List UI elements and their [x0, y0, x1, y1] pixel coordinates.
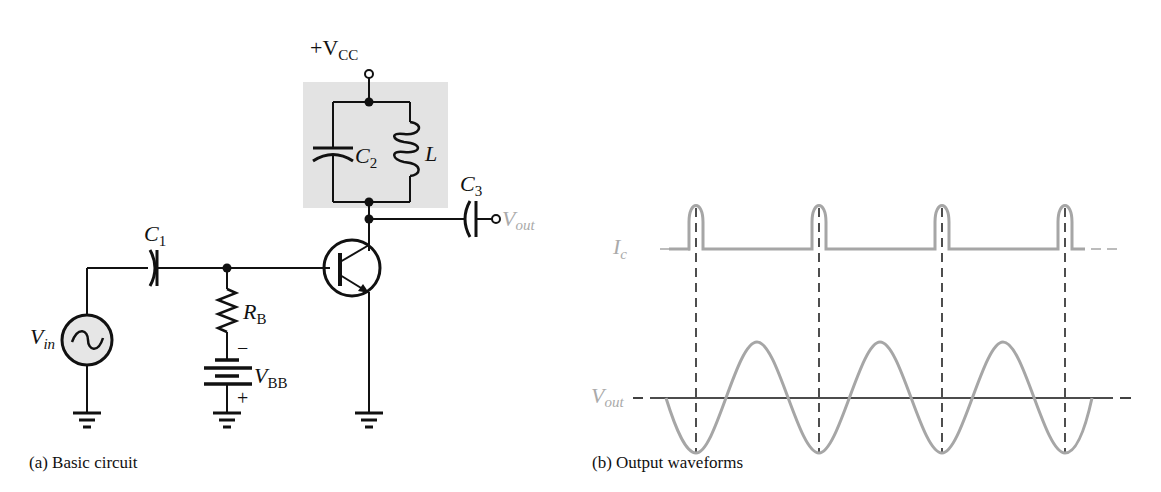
panel-b-caption: (b) Output waveforms [592, 453, 743, 473]
ac-source-vin-icon [62, 315, 112, 365]
ground-icon [73, 413, 101, 427]
c1-label: C1 [144, 221, 166, 249]
capacitor-c1-icon [150, 250, 157, 286]
capacitor-c3-icon [465, 201, 476, 237]
ic-label: Ic [612, 234, 627, 262]
vout-terminal-icon [492, 215, 500, 223]
vbb-minus-label: − [237, 337, 248, 359]
diagram-canvas: +VCC C2 L C3 Vout C1 RB − VBB + Vin [0, 0, 1161, 492]
panel-a-caption: (a) Basic circuit [29, 453, 138, 473]
vin-label: Vin [30, 324, 55, 352]
alignment-guides [696, 208, 1065, 453]
vbb-label: VBB [254, 363, 287, 391]
resistor-rb-icon [218, 289, 236, 332]
ic-waveform [660, 206, 1117, 250]
vcc-terminal-icon [365, 70, 373, 78]
basic-circuit [62, 70, 500, 427]
ground-icon [213, 413, 241, 427]
emitter-arrow-icon [358, 284, 369, 293]
vout-trace-label: Vout [591, 383, 624, 410]
npn-transistor-icon [324, 240, 380, 296]
battery-vbb-icon [204, 360, 252, 384]
c3-label: C3 [460, 171, 482, 199]
vcc-label: +VCC [310, 35, 358, 63]
l-label: L [424, 141, 437, 166]
junction-dot-icon [365, 98, 374, 107]
rb-label: RB [242, 299, 266, 327]
vbb-plus-label: + [237, 387, 248, 409]
ground-icon [355, 413, 383, 427]
vout-label: Vout [502, 206, 535, 233]
output-waveforms [633, 206, 1131, 454]
